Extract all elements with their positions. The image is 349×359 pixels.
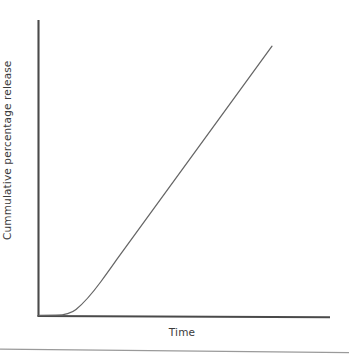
figure-container: Cummulative percentage release Time — [0, 0, 349, 359]
x-axis-title: Time — [0, 327, 349, 338]
page-divider-rule — [0, 349, 349, 352]
x-axis-title-text: Time — [169, 326, 195, 338]
x-axis-spine — [38, 316, 331, 317]
y-axis-title: Cummulative percentage release — [0, 0, 16, 300]
line-chart-plot — [0, 0, 349, 359]
release-curve — [39, 46, 272, 315]
y-axis-title-text: Cummulative percentage release — [3, 60, 14, 239]
